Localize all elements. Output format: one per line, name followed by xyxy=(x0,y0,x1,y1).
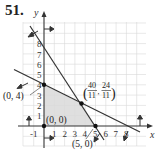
svg-text:1: 1 xyxy=(37,111,42,121)
svg-text:3: 3 xyxy=(37,91,42,101)
svg-text:2: 2 xyxy=(37,101,42,111)
svg-text:8: 8 xyxy=(124,129,129,139)
svg-text:24: 24 xyxy=(102,81,110,90)
svg-text:): ) xyxy=(111,86,116,102)
svg-text:4: 4 xyxy=(37,80,42,90)
svg-text:7: 7 xyxy=(114,129,119,139)
vertex-label-fraction: ( 40 11 , 24 11 ) xyxy=(83,81,116,102)
svg-text:8: 8 xyxy=(37,39,42,49)
vertex-label-0-4: (0, 4) xyxy=(3,91,24,102)
y-axis-label: y xyxy=(33,7,39,18)
y-tick-labels: -1 1 2 3 4 5 6 7 8 xyxy=(37,39,42,121)
svg-text:7: 7 xyxy=(37,50,42,60)
inequality-graph: x y -1 1 2 3 4 5 6 7 8 -1 1 2 3 4 5 xyxy=(0,0,160,152)
x-axis-arrow xyxy=(147,124,153,129)
svg-text:11: 11 xyxy=(88,91,96,100)
svg-text:5: 5 xyxy=(93,129,98,139)
svg-text:11: 11 xyxy=(102,91,110,100)
svg-text:40: 40 xyxy=(88,81,96,90)
svg-text:6: 6 xyxy=(37,60,42,70)
svg-text:5: 5 xyxy=(37,70,42,80)
svg-text:1: 1 xyxy=(52,129,57,139)
svg-text:-1: -1 xyxy=(30,129,38,139)
y-axis-arrow xyxy=(42,11,47,17)
vertex-label-origin: (0, 0) xyxy=(46,115,67,126)
svg-text:6: 6 xyxy=(104,129,109,139)
svg-text:3: 3 xyxy=(73,129,78,139)
x-axis-label: x xyxy=(149,129,155,140)
svg-text:,: , xyxy=(98,87,100,96)
vertex-label-5-0: (5, 0) xyxy=(72,139,93,150)
svg-text:2: 2 xyxy=(63,129,68,139)
